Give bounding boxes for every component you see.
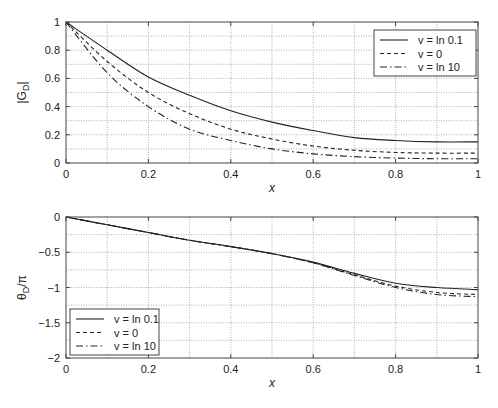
- y-axis-label: θD/π: [15, 275, 31, 300]
- x-tick-label: 0.6: [306, 363, 321, 375]
- y-axis-label: |GD|: [15, 81, 31, 103]
- y-tick-label: −2: [47, 352, 60, 364]
- y-label-main: |G: [15, 91, 29, 103]
- y-tick-label: 0.4: [45, 101, 60, 113]
- x-tick-label: 0.4: [223, 168, 238, 180]
- x-tick-label: 0: [63, 168, 69, 180]
- y-tick-label: −1: [47, 282, 60, 294]
- x-tick-label: 0.6: [306, 168, 321, 180]
- x-tick-label: 0: [63, 363, 69, 375]
- legend-label: v = ln 10: [114, 340, 156, 352]
- y-tick-label: −0.5: [38, 246, 60, 258]
- phase-plot: 00.20.40.60.81−2−1.5−1−0.50xθD/πv = ln 0…: [15, 211, 481, 390]
- y-tick-label: 0: [54, 157, 60, 169]
- y-tick-label: 0.2: [45, 129, 60, 141]
- x-tick-label: 1: [475, 363, 481, 375]
- x-tick-label: 0.2: [141, 168, 156, 180]
- legend-label: v = 0: [418, 48, 442, 60]
- magnitude-plot: 00.20.40.60.8100.20.40.60.81x|GD|v = ln …: [15, 16, 481, 195]
- x-tick-label: 0.8: [388, 168, 403, 180]
- y-tick-label: 0.8: [45, 44, 60, 56]
- x-tick-label: 0.8: [388, 363, 403, 375]
- y-label-end: |: [15, 81, 29, 84]
- y-tick-label: −1.5: [38, 317, 60, 329]
- y-tick-label: 1: [54, 16, 60, 28]
- y-label-end: /π: [15, 275, 29, 287]
- y-tick-label: 0.6: [45, 72, 60, 84]
- x-tick-label: 0.2: [141, 363, 156, 375]
- legend-label: v = ln 10: [418, 61, 460, 73]
- x-axis-label: x: [268, 181, 276, 195]
- legend: v = ln 0.1v = 0v = ln 10: [70, 309, 159, 355]
- legend-label: v = ln 0.1: [418, 34, 463, 46]
- legend-label: v = 0: [114, 327, 138, 339]
- x-tick-label: 0.4: [223, 363, 238, 375]
- x-axis-label: x: [268, 376, 276, 390]
- legend-label: v = ln 0.1: [114, 313, 159, 325]
- x-tick-label: 1: [475, 168, 481, 180]
- legend: v = ln 0.1v = 0v = ln 10: [374, 30, 476, 76]
- figure: 00.20.40.60.8100.20.40.60.81x|GD|v = ln …: [0, 0, 498, 408]
- y-tick-label: 0: [54, 211, 60, 223]
